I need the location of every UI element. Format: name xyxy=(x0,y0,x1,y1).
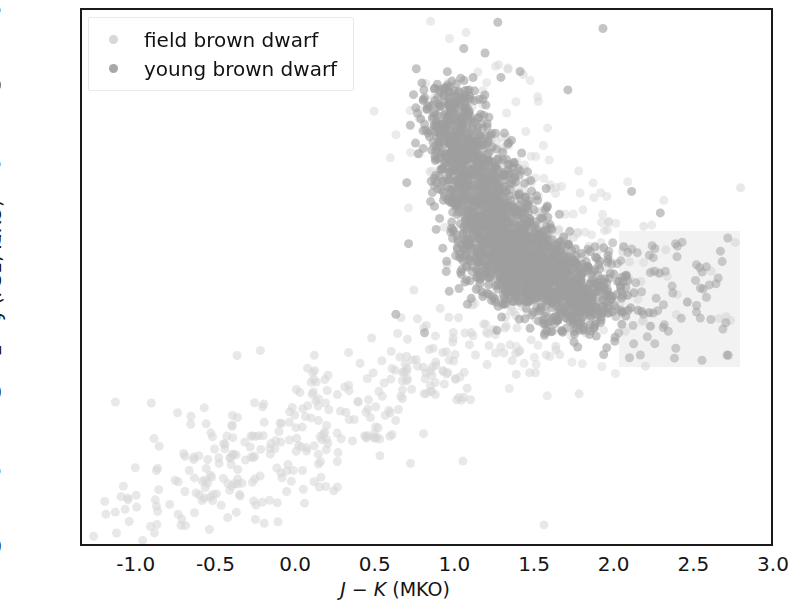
x-tick-label: -1.0 xyxy=(116,552,155,576)
y-tick-label: 4.0 xyxy=(0,380,2,404)
legend-label-young: young brown dwarf xyxy=(144,57,337,81)
y-tick-mark xyxy=(80,394,82,396)
x-tick-label: 2.5 xyxy=(677,552,709,576)
y-tick-label: 2.5 xyxy=(0,150,2,174)
y-axis-var1: z xyxy=(0,344,5,354)
x-tick-mark xyxy=(536,544,538,546)
y-tick-label: 5.0 xyxy=(0,534,2,558)
y-tick-mark xyxy=(80,164,82,166)
y-axis-title: z − J (PS1, MKO) xyxy=(0,200,5,355)
y-tick-mark xyxy=(80,471,82,473)
y-tick-label: 1.5 xyxy=(0,0,2,20)
x-axis-unit: (MKO) xyxy=(386,578,450,600)
x-tick-mark xyxy=(217,544,219,546)
legend-entry-young[interactable]: young brown dwarf xyxy=(99,54,337,83)
y-tick-label: 4.5 xyxy=(0,457,2,481)
legend-marker-field-icon xyxy=(109,35,118,44)
x-tick-label: 0.0 xyxy=(279,552,311,576)
legend-entry-field[interactable]: field brown dwarf xyxy=(99,25,337,54)
x-tick-label: -0.5 xyxy=(196,552,235,576)
y-tick-label: 2.0 xyxy=(0,73,2,97)
y-tick-mark xyxy=(80,317,82,319)
x-axis-minus: − xyxy=(346,578,374,600)
legend: field brown dwarf young brown dwarf xyxy=(88,17,354,91)
x-tick-mark xyxy=(616,544,618,546)
x-axis-title: J − K (MKO) xyxy=(340,578,450,600)
legend-marker-young-icon xyxy=(109,64,118,73)
scatter-plot-figure: z − J (PS1, MKO) J − K (MKO) field brown… xyxy=(0,0,791,607)
x-tick-mark xyxy=(695,544,697,546)
y-tick-label: 3.5 xyxy=(0,303,2,327)
plot-area: field brown dwarf young brown dwarf xyxy=(80,8,773,546)
x-tick-label: 1.5 xyxy=(518,552,550,576)
x-axis-var2: K xyxy=(374,578,386,600)
y-tick-mark xyxy=(80,10,82,12)
y-axis-unit: (PS1, MKO) xyxy=(0,200,5,311)
x-tick-mark xyxy=(377,544,379,546)
x-tick-label: 1.0 xyxy=(438,552,470,576)
y-tick-label: 3.0 xyxy=(0,227,2,251)
x-tick-label: 2.0 xyxy=(598,552,630,576)
x-tick-mark xyxy=(138,544,140,546)
legend-label-field: field brown dwarf xyxy=(144,28,318,52)
x-tick-mark xyxy=(456,544,458,546)
y-tick-mark xyxy=(80,87,82,89)
x-tick-mark xyxy=(297,544,299,546)
x-tick-label: 0.5 xyxy=(359,552,391,576)
x-tick-label: 3.0 xyxy=(757,552,789,576)
y-tick-mark xyxy=(80,241,82,243)
